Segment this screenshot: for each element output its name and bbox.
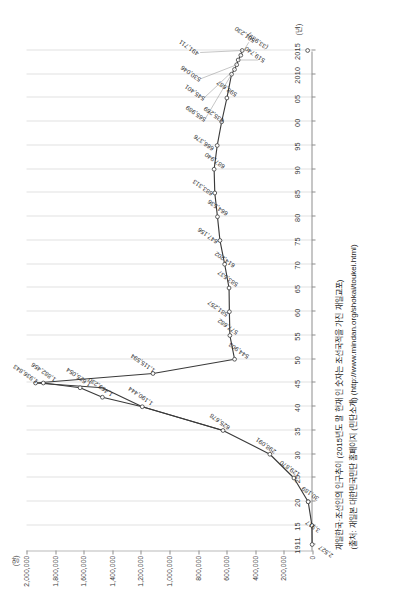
x-axis-tick-label: 45 xyxy=(292,379,301,387)
x-axis-tick-label: 30 xyxy=(292,451,301,459)
x-axis-tick-label: 75 xyxy=(292,237,301,245)
caption-line-1: 재일한국·조선인의 인구추이 (2015년도 말 현재 인 숫자는 조선국적을 … xyxy=(332,244,346,549)
data-point-label: 2,527 xyxy=(316,544,333,559)
data-point-label: 501,230 xyxy=(233,25,256,44)
figure-caption: 재일한국·조선인의 인구추이 (2015년도 말 현재 인 숫자는 조선국적을 … xyxy=(332,244,360,549)
y-axis-tick xyxy=(226,550,227,554)
y-axis-tick xyxy=(198,550,199,554)
y-axis-tick xyxy=(140,550,141,554)
x-axis-tick-label: 80 xyxy=(292,213,301,221)
leader-line xyxy=(240,42,248,55)
y-axis-tick-label: 400,000 xyxy=(251,555,258,580)
y-axis-tick-label: 200,000 xyxy=(280,555,287,580)
x-axis-tick-label: 70 xyxy=(292,261,301,269)
x-axis-unit-label: (년) xyxy=(292,23,302,35)
y-axis-tick xyxy=(26,550,27,554)
x-axis-tick-label: 00 xyxy=(292,118,301,126)
x-axis-tick-label: 90 xyxy=(292,166,301,174)
y-axis-tick xyxy=(112,550,113,554)
x-axis-tick-label: 15 xyxy=(292,522,301,530)
x-axis-tick-label: 05 xyxy=(292,94,301,102)
leader-line xyxy=(200,50,242,52)
y-axis-tick-label: 1,600,000 xyxy=(80,555,87,586)
y-axis-unit-label: (명) xyxy=(9,555,19,566)
y-axis-tick-label: 1,000,000 xyxy=(166,555,173,586)
x-axis-tick-label: 50 xyxy=(292,356,301,364)
x-axis-tick-label: 65 xyxy=(292,284,301,292)
data-point-label: (33,939) xyxy=(245,31,269,50)
y-axis-tick-label: 1,400,000 xyxy=(108,555,115,586)
x-axis-tick-label: 35 xyxy=(292,427,301,435)
y-axis-tick-label: 800,000 xyxy=(194,555,201,580)
x-axis-tick-label: 85 xyxy=(292,189,301,197)
y-axis-tick-label: 1,800,000 xyxy=(51,555,58,586)
x-axis-tick-label: 55 xyxy=(292,332,301,340)
x-axis-tick-label: 40 xyxy=(292,403,301,411)
caption-line-2: (출처: 재일본 대한민국민단 홈페이지 (민단소개) (http://www.… xyxy=(346,244,360,549)
y-axis-tick xyxy=(83,550,84,554)
x-axis-tick-label: 1911 xyxy=(292,537,301,553)
x-axis-tick-label: 2010 xyxy=(292,66,301,83)
x-axis-tick-label: 60 xyxy=(292,308,301,316)
leader-line xyxy=(204,69,234,97)
x-axis-tick-label: 2015 xyxy=(292,43,301,60)
y-axis-tick-label: 2,000,000 xyxy=(23,555,30,586)
x-axis-tick-label: 25 xyxy=(292,474,301,482)
y-axis-tick xyxy=(169,550,170,554)
plot-area: 2,5273,91730,189129,870298,091625,6781,1… xyxy=(26,51,312,551)
y-axis-tick xyxy=(55,550,56,554)
y-axis-tick-label: 600,000 xyxy=(223,555,230,580)
y-axis-tick xyxy=(312,550,313,554)
y-axis-tick-label: 0 xyxy=(309,555,316,559)
x-axis-tick-label: 95 xyxy=(292,142,301,150)
y-axis-tick xyxy=(283,550,284,554)
chart-page: (명) (년) 0200,000400,000600,000800,0001,0… xyxy=(0,0,395,613)
label-leader-lines xyxy=(26,50,312,550)
y-axis-tick xyxy=(255,550,256,554)
population-line-chart: (명) (년) 0200,000400,000600,000800,0001,0… xyxy=(0,0,395,613)
x-axis-tick-label: 20 xyxy=(292,498,301,506)
y-axis-tick-label: 1,200,000 xyxy=(137,555,144,586)
leader-line xyxy=(200,64,236,78)
leader-line xyxy=(205,74,231,118)
